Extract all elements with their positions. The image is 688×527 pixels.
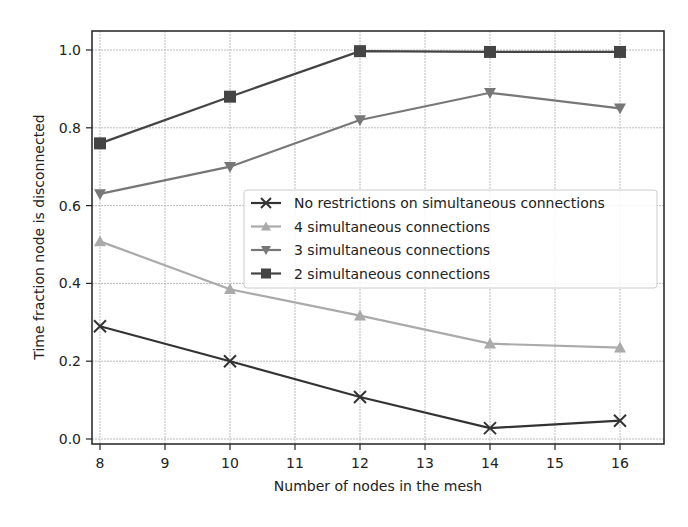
line-chart: 8910111213141516 0.00.20.40.60.81.0 Numb… <box>0 0 688 527</box>
x-tick-label: 11 <box>286 455 304 471</box>
square-marker-icon <box>224 91 236 103</box>
square-marker-icon <box>261 269 271 279</box>
x-axis-label: Number of nodes in the mesh <box>274 478 482 494</box>
x-tick-label: 9 <box>161 455 170 471</box>
x-tick-label: 10 <box>221 455 239 471</box>
x-tick-label: 8 <box>96 455 105 471</box>
triangle-up-marker-icon <box>94 235 106 246</box>
x-tick-label: 15 <box>546 455 564 471</box>
square-marker-icon <box>484 46 496 58</box>
square-marker-icon <box>94 137 106 149</box>
x-tick-label: 13 <box>416 455 434 471</box>
x-tick-label: 12 <box>351 455 369 471</box>
y-tick-label: 0.8 <box>59 120 81 136</box>
legend-label: No restrictions on simultaneous connecti… <box>294 195 605 211</box>
y-axis-ticks: 0.00.20.40.60.81.0 <box>59 42 92 447</box>
y-tick-label: 0.2 <box>59 353 81 369</box>
y-tick-label: 0.6 <box>59 198 81 214</box>
y-tick-label: 1.0 <box>59 42 81 58</box>
y-axis-label: Time fraction node is disconnected <box>31 114 47 360</box>
legend-label: 2 simultaneous connections <box>294 266 490 282</box>
square-marker-icon <box>614 46 626 58</box>
y-tick-label: 0.4 <box>59 275 81 291</box>
x-axis-ticks: 8910111213141516 <box>96 444 629 471</box>
x-tick-label: 14 <box>481 455 499 471</box>
legend-label: 4 simultaneous connections <box>294 219 490 235</box>
x-tick-label: 16 <box>611 455 629 471</box>
square-marker-icon <box>354 45 366 57</box>
legend-item: No restrictions on simultaneous connecti… <box>251 195 605 211</box>
legend: No restrictions on simultaneous connecti… <box>244 190 657 288</box>
y-tick-label: 0.0 <box>59 431 81 447</box>
triangle-down-marker-icon <box>94 189 106 200</box>
legend-label: 3 simultaneous connections <box>294 242 490 258</box>
